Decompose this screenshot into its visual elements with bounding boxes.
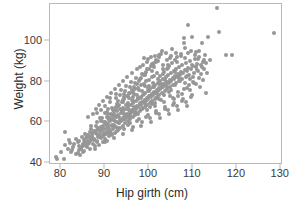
data-point bbox=[154, 91, 158, 95]
data-point bbox=[208, 58, 212, 62]
data-point bbox=[145, 108, 149, 112]
data-point bbox=[170, 47, 174, 51]
data-point bbox=[89, 124, 93, 128]
data-point bbox=[175, 60, 179, 64]
data-point bbox=[206, 35, 210, 39]
data-point bbox=[176, 94, 180, 98]
y-tick-label: 100 bbox=[24, 34, 42, 46]
data-point bbox=[163, 78, 167, 82]
data-point bbox=[217, 30, 221, 34]
y-axis-title: Weight (kg) bbox=[12, 19, 26, 139]
data-point bbox=[81, 150, 85, 154]
data-point bbox=[172, 97, 176, 101]
data-point bbox=[198, 85, 202, 89]
data-point bbox=[63, 143, 67, 147]
data-point bbox=[109, 91, 113, 95]
data-point bbox=[117, 115, 121, 119]
data-point bbox=[139, 124, 143, 128]
data-point bbox=[108, 100, 112, 104]
y-tick-label: 40 bbox=[30, 156, 42, 168]
data-point bbox=[112, 136, 116, 140]
data-point bbox=[178, 79, 182, 83]
data-point bbox=[197, 76, 201, 80]
y-tick-mark bbox=[44, 161, 49, 162]
data-point bbox=[158, 116, 162, 120]
data-point bbox=[182, 41, 186, 45]
x-tick-mark bbox=[191, 164, 192, 169]
data-point bbox=[86, 139, 90, 143]
data-point bbox=[101, 99, 105, 103]
data-point bbox=[204, 91, 208, 95]
y-tick-label: 80 bbox=[30, 75, 42, 87]
data-point bbox=[143, 73, 147, 77]
data-point bbox=[63, 130, 67, 134]
data-point bbox=[160, 49, 164, 53]
x-tick-mark bbox=[59, 164, 60, 169]
x-axis-title: Hip girth (cm) bbox=[0, 186, 304, 200]
data-point bbox=[104, 123, 108, 127]
data-point bbox=[183, 46, 187, 50]
data-point bbox=[138, 77, 142, 81]
data-point bbox=[196, 57, 200, 61]
data-point bbox=[182, 36, 186, 40]
data-point bbox=[67, 138, 71, 142]
data-point bbox=[139, 107, 143, 111]
data-point bbox=[95, 111, 99, 115]
data-point bbox=[187, 83, 191, 87]
data-point bbox=[165, 85, 169, 89]
data-point bbox=[148, 105, 152, 109]
data-point bbox=[90, 136, 94, 140]
data-point bbox=[114, 96, 118, 100]
data-point bbox=[113, 87, 117, 91]
data-point bbox=[107, 131, 111, 135]
data-point bbox=[161, 63, 165, 67]
data-point bbox=[130, 71, 134, 75]
data-point bbox=[138, 101, 142, 105]
data-point bbox=[130, 128, 134, 132]
data-points-layer bbox=[50, 4, 281, 163]
data-point bbox=[189, 49, 193, 53]
data-point bbox=[150, 69, 154, 73]
data-point bbox=[76, 140, 80, 144]
data-point bbox=[144, 115, 148, 119]
data-point bbox=[193, 53, 197, 57]
y-tick-label: 60 bbox=[30, 115, 42, 127]
data-point bbox=[191, 75, 195, 79]
data-point bbox=[103, 140, 107, 144]
y-tick-mark bbox=[44, 121, 49, 122]
data-point bbox=[97, 103, 101, 107]
data-point bbox=[93, 147, 97, 151]
data-point bbox=[127, 108, 131, 112]
data-point bbox=[125, 75, 129, 79]
data-point bbox=[99, 129, 103, 133]
data-point bbox=[162, 93, 166, 97]
data-point bbox=[148, 94, 152, 98]
data-point bbox=[162, 100, 166, 104]
data-point bbox=[185, 104, 189, 108]
data-point bbox=[230, 53, 234, 57]
data-point bbox=[69, 150, 73, 154]
data-point bbox=[128, 114, 132, 118]
data-point bbox=[190, 35, 194, 39]
data-point bbox=[149, 120, 153, 124]
x-tick-mark bbox=[147, 164, 148, 169]
data-point bbox=[189, 95, 193, 99]
data-point bbox=[138, 65, 142, 69]
data-point bbox=[169, 54, 173, 58]
data-point bbox=[126, 123, 130, 127]
data-point bbox=[142, 56, 146, 60]
data-point bbox=[121, 132, 125, 136]
data-point bbox=[166, 66, 170, 70]
plot-area bbox=[49, 3, 282, 164]
data-point bbox=[121, 79, 125, 83]
x-tick-mark bbox=[235, 164, 236, 169]
scatter-plot-figure: 406080100 8090100110120130 Weight (kg) H… bbox=[0, 0, 304, 209]
data-point bbox=[152, 65, 156, 69]
data-point bbox=[272, 31, 276, 35]
data-point bbox=[71, 145, 75, 149]
data-point bbox=[215, 6, 219, 10]
y-tick-mark bbox=[44, 80, 49, 81]
data-point bbox=[188, 88, 192, 92]
data-point bbox=[62, 157, 66, 161]
data-point bbox=[173, 70, 177, 74]
